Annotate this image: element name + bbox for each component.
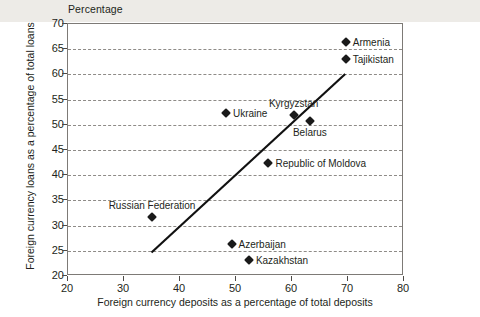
x-tick-label-50: 50 bbox=[229, 282, 241, 294]
x-tick-label-20: 20 bbox=[61, 282, 73, 294]
y-tick-label-55: 55 bbox=[42, 93, 64, 105]
x-tick-label-80: 80 bbox=[397, 282, 409, 294]
data-point-label: Kazakhstan bbox=[256, 254, 308, 265]
y-axis-tick-labels: 2025303540455055606570 bbox=[38, 23, 64, 275]
y-axis-tick-marks bbox=[62, 23, 68, 275]
chart-title: Percentage bbox=[68, 3, 123, 15]
y-tick-label-60: 60 bbox=[42, 67, 64, 79]
y-tick-label-35: 35 bbox=[42, 193, 64, 205]
x-tick-mark-70 bbox=[347, 276, 348, 281]
gridline-30 bbox=[68, 226, 402, 227]
data-point-label: Russian Federation bbox=[109, 200, 196, 211]
plot-area: ArmeniaTajikistanUkraineKyrgyzstanBelaru… bbox=[67, 23, 403, 275]
gridline-40 bbox=[68, 175, 402, 176]
x-tick-mark-20 bbox=[67, 276, 68, 281]
y-tick-label-45: 45 bbox=[42, 143, 64, 155]
data-point-marker[interactable] bbox=[147, 212, 157, 222]
y-tick-label-70: 70 bbox=[42, 17, 64, 29]
x-tick-mark-40 bbox=[179, 276, 180, 281]
x-axis-title: Foreign currency deposits as a percentag… bbox=[67, 296, 403, 308]
data-point-marker[interactable] bbox=[244, 255, 254, 265]
gridline-60 bbox=[68, 74, 402, 75]
y-tick-label-65: 65 bbox=[42, 42, 64, 54]
data-point-label: Ukraine bbox=[233, 107, 267, 118]
data-point-label: Kyrgyzstan bbox=[269, 98, 318, 109]
y-tick-label-20: 20 bbox=[42, 269, 64, 281]
gridline-65 bbox=[68, 49, 402, 50]
x-tick-label-30: 30 bbox=[117, 282, 129, 294]
y-tick-mark-25 bbox=[62, 250, 67, 251]
data-point-label: Tajikistan bbox=[353, 54, 394, 65]
y-tick-mark-65 bbox=[62, 48, 67, 49]
y-tick-mark-55 bbox=[62, 99, 67, 100]
x-tick-label-40: 40 bbox=[173, 282, 185, 294]
data-point-label: Armenia bbox=[353, 37, 390, 48]
x-tick-label-70: 70 bbox=[341, 282, 353, 294]
y-tick-mark-45 bbox=[62, 149, 67, 150]
y-tick-mark-50 bbox=[62, 124, 67, 125]
x-tick-mark-60 bbox=[291, 276, 292, 281]
gridline-45 bbox=[68, 150, 402, 151]
data-point-marker[interactable] bbox=[289, 110, 299, 120]
data-point-label: Belarus bbox=[293, 127, 327, 138]
x-axis-tick-marks bbox=[67, 276, 403, 282]
data-point-marker[interactable] bbox=[341, 37, 351, 47]
y-tick-label-40: 40 bbox=[42, 168, 64, 180]
gridline-25 bbox=[68, 251, 402, 252]
x-tick-mark-80 bbox=[403, 276, 404, 281]
data-point-marker[interactable] bbox=[264, 158, 274, 168]
y-tick-mark-70 bbox=[62, 23, 67, 24]
y-tick-label-30: 30 bbox=[42, 219, 64, 231]
data-point-marker[interactable] bbox=[221, 108, 231, 118]
data-point-marker[interactable] bbox=[227, 239, 237, 249]
x-tick-label-60: 60 bbox=[285, 282, 297, 294]
gridline-55 bbox=[68, 100, 402, 101]
y-tick-label-50: 50 bbox=[42, 118, 64, 130]
gridline-50 bbox=[68, 125, 402, 126]
y-tick-mark-40 bbox=[62, 174, 67, 175]
y-tick-label-25: 25 bbox=[42, 244, 64, 256]
x-tick-mark-50 bbox=[235, 276, 236, 281]
scatter-chart-figure: Percentage ArmeniaTajikistanUkraineKyrgy… bbox=[0, 0, 480, 317]
data-point-marker[interactable] bbox=[341, 54, 351, 64]
x-tick-mark-30 bbox=[123, 276, 124, 281]
data-point-label: Azerbaijan bbox=[239, 239, 286, 250]
y-axis-title: Foreign currency loans as a percentage o… bbox=[24, 21, 36, 271]
data-point-label: Republic of Moldova bbox=[275, 157, 366, 168]
y-tick-mark-35 bbox=[62, 199, 67, 200]
y-tick-mark-30 bbox=[62, 225, 67, 226]
y-tick-mark-60 bbox=[62, 73, 67, 74]
